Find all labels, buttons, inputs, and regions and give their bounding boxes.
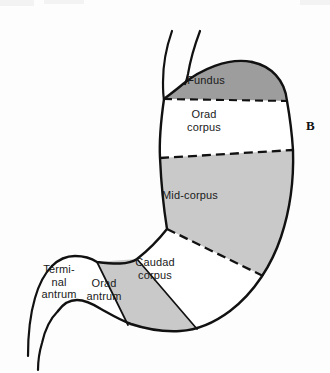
panel-label-b: B — [306, 118, 315, 134]
region-fundus — [164, 61, 287, 101]
esophagus-left-wall — [163, 31, 172, 99]
region-orad-corpus — [160, 99, 293, 158]
stomach-regions-figure: Fundus Orad corpus Mid-corpus Caudad cor… — [0, 0, 330, 373]
duodenum-lower-wall — [38, 311, 58, 370]
stomach-diagram — [0, 0, 330, 373]
duodenum-upper-wall — [28, 266, 52, 356]
lesser-curvature-outline — [52, 99, 167, 266]
